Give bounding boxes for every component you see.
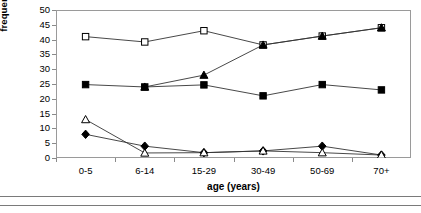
- x-tick-mark: [234, 158, 235, 162]
- series-filled-square-series: [86, 85, 382, 96]
- series-open-square-series: [86, 28, 382, 45]
- series-filled-triangle-series: [145, 28, 382, 87]
- data-point-filled-square: [319, 81, 325, 87]
- x-axis-title: age (years): [56, 181, 411, 192]
- x-tick-mark: [115, 158, 116, 162]
- series-line: [86, 120, 382, 156]
- data-point-filled-square: [378, 87, 384, 93]
- chart-figure: frequency of isolation (% ) 051015202530…: [0, 0, 421, 213]
- data-point-filled-square: [201, 82, 207, 88]
- data-point-filled-triangle: [200, 71, 208, 78]
- series-open-triangle-series: [86, 120, 382, 156]
- x-tick-label: 15-29: [174, 166, 234, 176]
- y-tick-label: 30: [24, 64, 50, 74]
- x-tick-mark: [352, 158, 353, 162]
- figure-divider-top: [0, 196, 421, 197]
- y-tick-label: 15: [24, 109, 50, 119]
- data-point-open-square: [82, 33, 88, 39]
- plot-area: [56, 10, 411, 158]
- y-tick-label: 10: [24, 123, 50, 133]
- y-tick-label: 50: [24, 5, 50, 15]
- x-tick-label: 70+: [351, 166, 411, 176]
- series-line: [86, 85, 382, 96]
- y-tick-label: 5: [24, 138, 50, 148]
- data-point-open-square: [201, 28, 207, 34]
- series-line: [86, 28, 382, 45]
- data-point-filled-square: [82, 81, 88, 87]
- figure-divider-bottom: [0, 205, 421, 206]
- data-point-filled-square: [260, 93, 266, 99]
- y-tick-label: 40: [24, 35, 50, 45]
- x-tick-label: 0-5: [56, 166, 116, 176]
- data-point-open-triangle: [82, 116, 90, 123]
- y-axis-title: frequency of isolation (% ): [0, 0, 9, 36]
- data-point-filled-diamond: [82, 130, 90, 138]
- x-tick-mark: [56, 158, 57, 162]
- data-point-open-square: [142, 39, 148, 45]
- x-tick-label: 30-49: [233, 166, 293, 176]
- markers-open-square-series: [82, 25, 384, 49]
- y-tick-label: 45: [24, 20, 50, 30]
- y-tick-label: 25: [24, 79, 50, 89]
- x-tick-label: 6-14: [115, 166, 175, 176]
- series-line: [145, 28, 382, 87]
- x-tick-mark: [293, 158, 294, 162]
- y-tick-label: 20: [24, 94, 50, 104]
- series-layer: [56, 10, 411, 158]
- x-tick-label: 50-69: [292, 166, 352, 176]
- y-tick-label: 0: [24, 153, 50, 163]
- y-tick-label: 35: [24, 49, 50, 59]
- x-tick-mark: [174, 158, 175, 162]
